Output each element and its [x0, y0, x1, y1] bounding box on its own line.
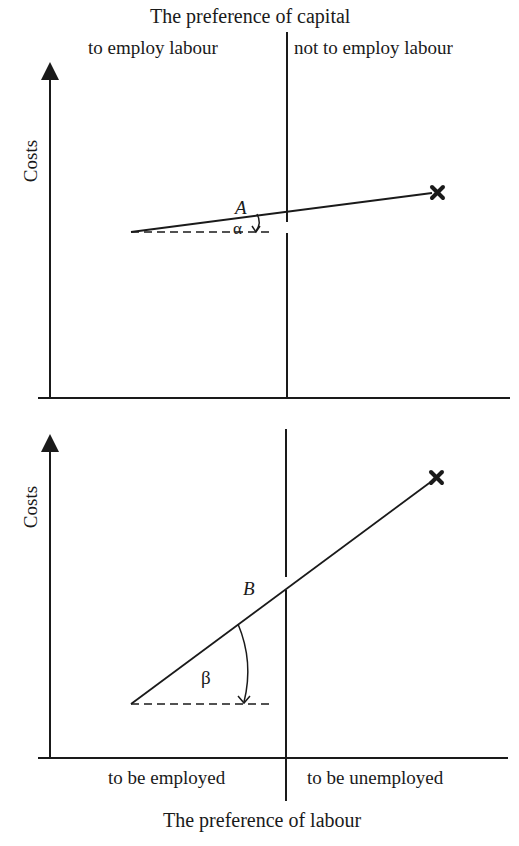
bottom-left-label: to be employed — [108, 768, 225, 787]
bottom-right-label: to be unemployed — [307, 768, 443, 787]
line-b — [131, 481, 432, 704]
bottom-panel — [38, 429, 508, 801]
top-y-axis-label: Costs — [20, 140, 42, 182]
line-a-label: A — [235, 198, 247, 217]
bottom-x-marker-icon — [431, 472, 442, 483]
diagram-canvas — [0, 0, 519, 846]
alpha-arrowhead-icon — [252, 226, 260, 232]
top-panel — [38, 32, 510, 399]
line-b-label: B — [243, 579, 255, 598]
beta-label: β — [201, 668, 211, 687]
alpha-label: α — [233, 220, 242, 237]
top-left-label: to employ labour — [88, 38, 218, 57]
bottom-y-axis-label: Costs — [20, 486, 42, 528]
top-y-axis-arrow-icon — [41, 62, 59, 80]
beta-arc — [238, 624, 248, 702]
bottom-title: The preference of labour — [163, 810, 361, 830]
bottom-y-axis-arrow-icon — [41, 434, 59, 452]
line-a — [131, 193, 432, 232]
top-x-marker-icon — [432, 187, 443, 198]
top-title: The preference of capital — [150, 6, 350, 26]
top-right-label: not to employ labour — [294, 38, 453, 57]
